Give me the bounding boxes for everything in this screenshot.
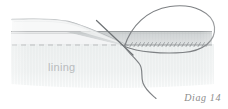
- lining-label: lining: [48, 61, 76, 73]
- figure-caption: Diag 14: [184, 92, 221, 103]
- sewing-diagram-figure: lining Diag 14: [0, 0, 228, 109]
